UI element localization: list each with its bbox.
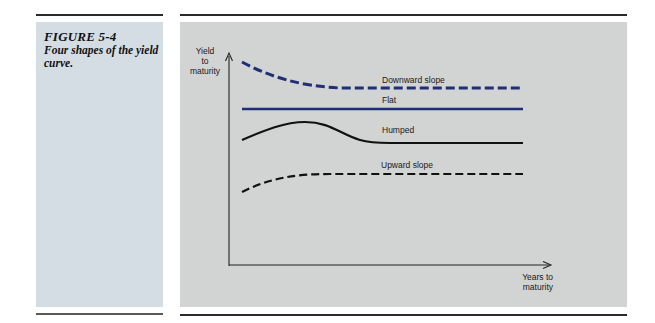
y-axis-label-line1: Yield bbox=[196, 46, 215, 56]
right-top-rule bbox=[180, 14, 627, 16]
x-axis bbox=[229, 262, 551, 269]
x-axis-label-line1: Years to bbox=[522, 272, 553, 282]
label-humped: Humped bbox=[382, 125, 414, 135]
x-axis-label-line2: maturity bbox=[523, 282, 554, 292]
right-bottom-rule bbox=[180, 314, 627, 316]
yield-curve-chart: Yield to maturity Years to maturity Down… bbox=[180, 22, 627, 307]
figure-caption: Four shapes of the yield curve. bbox=[44, 44, 159, 70]
chart-panel: Yield to maturity Years to maturity Down… bbox=[180, 22, 627, 307]
label-downward-slope: Downward slope bbox=[382, 75, 445, 85]
label-flat: Flat bbox=[382, 95, 397, 105]
y-axis bbox=[226, 53, 233, 266]
figure-caption-panel: FIGURE 5-4 Four shapes of the yield curv… bbox=[36, 22, 163, 307]
curve-upward-slope bbox=[242, 174, 523, 192]
label-upward-slope: Upward slope bbox=[381, 160, 433, 170]
y-axis-label-line2: to bbox=[201, 56, 208, 66]
figure-number: FIGURE 5-4 bbox=[44, 29, 116, 45]
left-top-rule bbox=[36, 14, 163, 16]
y-axis-label-line3: maturity bbox=[190, 66, 221, 76]
left-bottom-rule bbox=[36, 313, 163, 315]
